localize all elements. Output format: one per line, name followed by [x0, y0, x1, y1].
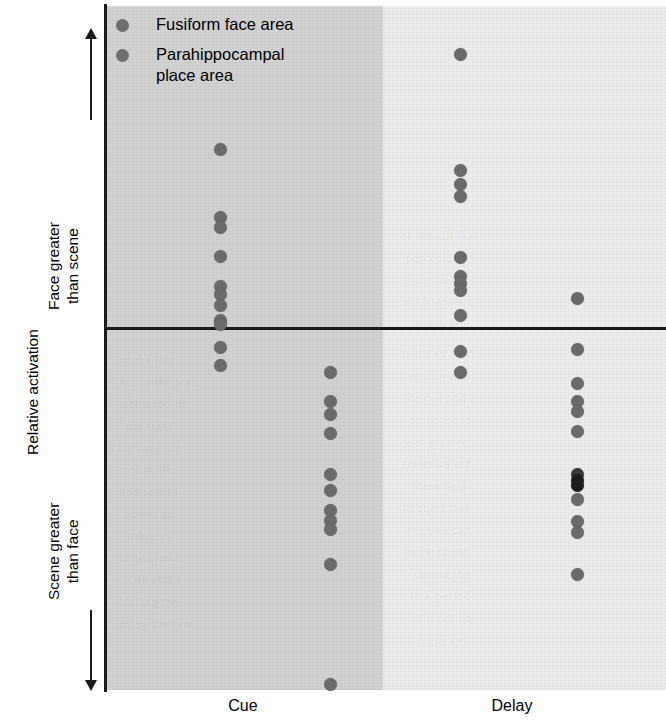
y-axis-upper-line1: Face greater — [45, 222, 62, 310]
data-point — [324, 395, 337, 408]
down-arrow-head-icon — [85, 680, 97, 691]
legend-item-ppa: Parahippocampal place area — [116, 44, 294, 86]
data-point — [454, 309, 467, 322]
data-point — [324, 408, 337, 421]
data-point — [571, 292, 584, 305]
data-point — [571, 343, 584, 356]
data-point — [571, 377, 584, 390]
data-point — [324, 366, 337, 379]
data-point — [454, 48, 467, 61]
data-point — [214, 143, 227, 156]
data-point — [214, 250, 227, 263]
data-point — [324, 523, 337, 536]
y-axis-lower-line2: than face — [64, 519, 81, 583]
data-point — [214, 318, 227, 331]
data-point — [324, 678, 337, 691]
y-axis-title: Relative activation — [24, 329, 42, 455]
down-arrow-icon — [90, 610, 92, 680]
data-point — [214, 359, 227, 372]
data-point — [454, 345, 467, 358]
legend-label-ppa-line2: place area — [156, 66, 233, 84]
up-arrow-icon — [90, 36, 92, 120]
y-axis-upper-line2: than scene — [64, 228, 81, 304]
data-point — [324, 468, 337, 481]
data-point — [454, 284, 467, 297]
data-point — [571, 526, 584, 539]
zero-reference-line — [104, 327, 666, 330]
y-axis-lower-annotation: Scene greater than face — [44, 503, 82, 600]
legend-label-ppa-line1: Parahippocampal — [156, 45, 284, 63]
x-axis-label-delay: Delay — [452, 697, 572, 715]
data-point — [571, 425, 584, 438]
legend-label-ffa: Fusiform face area — [156, 14, 294, 35]
panel-delay-background — [383, 6, 666, 690]
data-point — [324, 427, 337, 440]
up-arrow-head-icon — [85, 28, 97, 39]
data-point — [454, 190, 467, 203]
data-point — [214, 341, 227, 354]
data-point — [214, 299, 227, 312]
figure-canvas: of stimuli thatperceptualis activationma… — [0, 0, 666, 727]
legend-item-ffa: Fusiform face area — [116, 14, 294, 35]
data-point — [214, 221, 227, 234]
data-point — [454, 251, 467, 264]
y-axis-lower-line1: Scene greater — [45, 503, 62, 600]
y-axis-line — [104, 4, 107, 692]
data-point — [571, 405, 584, 418]
x-axis-label-cue: Cue — [183, 697, 303, 715]
gray-dot-marker-icon — [116, 49, 129, 62]
data-point — [454, 366, 467, 379]
panel-cue-background — [104, 6, 383, 690]
y-axis-upper-annotation: Face greater than scene — [44, 222, 82, 310]
legend-label-ppa: Parahippocampal place area — [156, 44, 294, 86]
data-point — [454, 164, 467, 177]
gray-dot-marker-icon — [116, 19, 129, 32]
data-point — [324, 558, 337, 571]
data-point — [571, 479, 584, 492]
legend: Fusiform face area Parahippocampal place… — [116, 14, 294, 95]
data-point — [571, 493, 584, 506]
data-point — [571, 568, 584, 581]
data-point — [324, 484, 337, 497]
